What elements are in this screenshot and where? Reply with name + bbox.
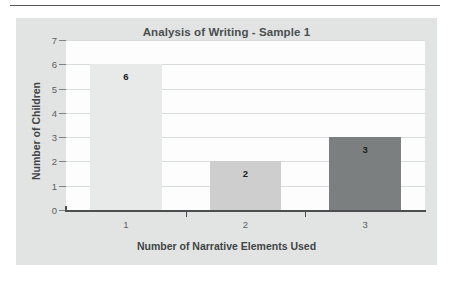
bar-value-label: 3	[329, 144, 401, 155]
x-axis-line	[65, 210, 426, 212]
bar[interactable]: 3	[329, 137, 401, 210]
chart-title: Analysis of Writing - Sample 1	[16, 26, 437, 38]
page-divider-rule	[10, 5, 440, 6]
bar[interactable]: 2	[210, 161, 282, 210]
chart-panel: Analysis of Writing - Sample 1 Number of…	[16, 18, 437, 265]
y-axis-tick	[59, 89, 66, 90]
bar-value-label: 2	[210, 168, 282, 179]
y-axis-tick-label: 5	[52, 83, 57, 94]
y-axis-tick-label: 2	[52, 156, 57, 167]
y-axis-tick	[59, 161, 66, 162]
gridline	[66, 40, 425, 41]
x-axis-title: Number of Narrative Elements Used	[16, 240, 437, 252]
x-axis-tick	[305, 212, 306, 217]
y-axis-tick-label: 6	[52, 59, 57, 70]
y-axis-tick	[59, 113, 66, 114]
y-axis-tick	[59, 186, 66, 187]
bar[interactable]: 6	[90, 64, 162, 210]
plot-area: 01234567 623	[66, 40, 425, 210]
y-axis-tick	[59, 64, 66, 65]
y-axis-tick-label: 4	[52, 107, 57, 118]
y-axis-tick-label: 3	[52, 132, 57, 143]
x-axis-category-label: 3	[363, 219, 368, 230]
y-axis-title: Number of Children	[30, 66, 42, 196]
y-axis-tick-label: 7	[52, 35, 57, 46]
y-axis-tick-label: 1	[52, 180, 57, 191]
y-axis-tick	[59, 137, 66, 138]
bar-value-label: 6	[90, 71, 162, 82]
x-axis-category-label: 1	[123, 219, 128, 230]
x-axis-tick	[186, 212, 187, 217]
y-axis-tick-label: 0	[52, 205, 57, 216]
x-axis-category-label: 2	[243, 219, 248, 230]
y-axis-tick	[59, 40, 66, 41]
x-axis-origin-cap	[65, 206, 67, 211]
